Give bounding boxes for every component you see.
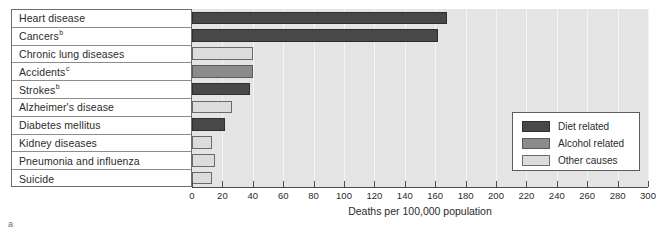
x-axis-tick-label: 300: [633, 190, 663, 201]
x-axis-tick: [648, 181, 649, 187]
x-axis-tick: [253, 181, 254, 187]
x-axis-tick: [374, 181, 375, 187]
bar[interactable]: [192, 29, 438, 42]
bar[interactable]: [192, 65, 253, 78]
bar-slot: [192, 169, 648, 187]
legend: Diet related Alcohol related Other cause…: [512, 112, 640, 171]
bar-slot: [192, 9, 648, 27]
category-label-row: Strokesb: [12, 81, 191, 99]
legend-swatch-alcohol-icon: [522, 138, 550, 149]
x-axis-tick-label: 240: [542, 190, 572, 201]
x-axis-tick-label: 160: [420, 190, 450, 201]
bar[interactable]: [192, 154, 215, 167]
bar[interactable]: [192, 136, 212, 149]
x-axis-tick: [222, 181, 223, 187]
x-axis-tick: [435, 181, 436, 187]
legend-item-diet[interactable]: Diet related: [522, 118, 639, 134]
footnote-marker: a: [8, 219, 13, 229]
category-label-row: Diabetes mellitus: [12, 117, 191, 135]
bar[interactable]: [192, 118, 225, 131]
category-label-text: Alzheimer's disease: [19, 101, 114, 113]
legend-label-alcohol: Alcohol related: [558, 138, 624, 149]
x-axis-tick: [618, 181, 619, 187]
x-axis-tick: [283, 181, 284, 187]
bar-slot: [192, 45, 648, 63]
gridline: [648, 9, 649, 187]
bar[interactable]: [192, 101, 232, 114]
bar-slot: [192, 62, 648, 80]
category-label-text: Chronic lung diseases: [19, 48, 124, 60]
x-axis-tick: [192, 181, 193, 187]
category-label-text: Cancers: [19, 30, 59, 42]
bar-slot: [192, 27, 648, 45]
x-axis-tick-label: 40: [238, 190, 268, 201]
x-axis-tick: [587, 181, 588, 187]
category-label-text: Strokes: [19, 84, 55, 96]
x-axis-line: [192, 187, 648, 188]
x-axis-tick-label: 280: [603, 190, 633, 201]
x-axis-tick-label: 140: [390, 190, 420, 201]
x-axis-tick: [557, 181, 558, 187]
category-label-text: Accidents: [19, 66, 65, 78]
category-label-text: Heart disease: [19, 12, 85, 24]
x-axis-tick-label: 260: [572, 190, 602, 201]
bar[interactable]: [192, 47, 253, 60]
category-label-text: Suicide: [19, 173, 54, 185]
bar[interactable]: [192, 172, 212, 185]
x-axis-tick-label: 120: [359, 190, 389, 201]
category-label-panel: Heart diseaseCancersbChronic lung diseas…: [11, 9, 192, 187]
legend-item-alcohol[interactable]: Alcohol related: [522, 135, 639, 151]
bar[interactable]: [192, 12, 447, 25]
category-label-text: Pneumonia and influenza: [19, 155, 140, 167]
x-axis-tick-label: 200: [481, 190, 511, 201]
x-axis-tick: [405, 181, 406, 187]
category-label-text: Kidney diseases: [19, 137, 97, 149]
category-label-row: Cancersb: [12, 28, 191, 46]
bar-chart: Heart diseaseCancersbChronic lung diseas…: [0, 0, 670, 234]
x-axis-tick-label: 80: [299, 190, 329, 201]
category-label-row: Kidney diseases: [12, 135, 191, 153]
bar[interactable]: [192, 83, 250, 96]
legend-label-other: Other causes: [558, 155, 617, 166]
category-label-row: Pneumonia and influenza: [12, 152, 191, 170]
category-label-row: Alzheimer's disease: [12, 99, 191, 117]
legend-swatch-diet-icon: [522, 121, 550, 132]
x-axis-tick-label: 180: [451, 190, 481, 201]
bar-slot: [192, 80, 648, 98]
category-label-row: Heart disease: [12, 10, 191, 28]
x-axis-tick: [526, 181, 527, 187]
category-label-row: Accidentsc: [12, 63, 191, 81]
legend-swatch-other-icon: [522, 155, 550, 166]
x-axis-tick: [344, 181, 345, 187]
category-label-text: Diabetes mellitus: [19, 119, 101, 131]
x-axis-tick: [466, 181, 467, 187]
x-axis-tick: [496, 181, 497, 187]
x-axis-tick: [314, 181, 315, 187]
x-axis-tick-label: 20: [207, 190, 237, 201]
x-axis-title: Deaths per 100,000 population: [192, 205, 648, 217]
legend-label-diet: Diet related: [558, 121, 609, 132]
x-axis-tick-label: 100: [329, 190, 359, 201]
x-axis-tick-label: 0: [177, 190, 207, 201]
legend-item-other[interactable]: Other causes: [522, 152, 639, 168]
category-label-row: Suicide: [12, 170, 191, 188]
x-axis-tick-label: 220: [511, 190, 541, 201]
category-label-row: Chronic lung diseases: [12, 46, 191, 64]
x-axis-tick-label: 60: [268, 190, 298, 201]
